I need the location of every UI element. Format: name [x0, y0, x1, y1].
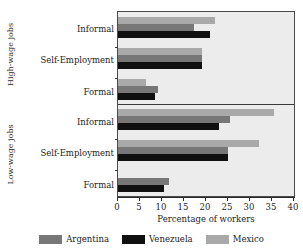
bar-high-wage-jobs-self-employment-argentina [118, 55, 202, 62]
category-label-low-self-employment: Self-Employment [22, 148, 114, 158]
x-tick-label: 25 [222, 202, 233, 212]
bar-low-wage-jobs-formal-venezuela [118, 185, 164, 192]
x-tick [161, 197, 162, 201]
bar-low-wage-jobs-formal-argentina [118, 178, 169, 185]
x-tick-label: 40 [288, 202, 299, 212]
panel-label-high-wage: High-wage jobs [6, 5, 15, 105]
legend-item-mexico[interactable]: Mexico [206, 234, 264, 244]
legend-label-argentina: Argentina [66, 234, 109, 244]
y-tick [115, 170, 118, 171]
bar-low-wage-jobs-informal-mexico [118, 109, 274, 116]
category-label-low-formal: Formal [22, 180, 114, 190]
x-tick [183, 197, 184, 201]
bar-high-wage-jobs-informal-mexico [118, 17, 215, 24]
x-tick [205, 197, 206, 201]
legend-swatch-venezuela-icon [122, 235, 145, 244]
category-label-high-formal: Formal [22, 87, 114, 97]
category-label-low-informal: Informal [22, 117, 114, 127]
bar-low-wage-jobs-self-employment-argentina [118, 147, 228, 154]
x-tick [139, 197, 140, 201]
bar-low-wage-jobs-self-employment-venezuela [118, 154, 228, 161]
x-tick [293, 197, 294, 201]
legend-swatch-mexico-icon [206, 235, 229, 244]
x-tick [227, 197, 228, 201]
legend-item-argentina[interactable]: Argentina [39, 234, 109, 244]
bar-low-wage-jobs-informal-venezuela [118, 123, 219, 130]
legend-label-mexico: Mexico [233, 234, 264, 244]
x-tick-label: 35 [266, 202, 277, 212]
x-axis-title: Percentage of workers [117, 214, 295, 224]
chart-root: High-wage jobs Low-wage jobs Informal Se… [0, 0, 303, 251]
bar-high-wage-jobs-self-employment-mexico [118, 48, 202, 55]
bar-high-wage-jobs-informal-venezuela [118, 31, 210, 38]
panel-label-low-wage: Low-wage jobs [6, 105, 15, 205]
x-tick-label: 30 [244, 202, 255, 212]
bar-low-wage-jobs-informal-argentina [118, 116, 230, 123]
x-tick [271, 197, 272, 201]
x-tick-label: 0 [114, 202, 119, 212]
category-label-high-self-employment: Self-Employment [22, 55, 114, 65]
panel-divider [118, 104, 294, 105]
legend-item-venezuela[interactable]: Venezuela [122, 234, 193, 244]
bar-high-wage-jobs-formal-venezuela [118, 93, 155, 100]
x-tick-label: 10 [156, 202, 167, 212]
x-tick [117, 197, 118, 201]
x-tick-label: 20 [200, 202, 211, 212]
bar-low-wage-jobs-self-employment-mexico [118, 140, 259, 147]
x-tick-label: 15 [178, 202, 189, 212]
legend-swatch-argentina-icon [39, 235, 62, 244]
x-tick-label: 5 [136, 202, 141, 212]
x-tick [249, 197, 250, 201]
x-axis-line [117, 197, 295, 198]
bar-high-wage-jobs-self-employment-venezuela [118, 62, 202, 69]
plot-area [117, 11, 295, 197]
bar-high-wage-jobs-informal-argentina [118, 24, 194, 31]
chart-legend: Argentina Venezuela Mexico [0, 232, 303, 246]
legend-label-venezuela: Venezuela [149, 234, 193, 244]
category-axis-labels: Informal Self-Employment Formal Informal… [18, 0, 114, 197]
bar-high-wage-jobs-formal-argentina [118, 86, 158, 93]
category-label-high-informal: Informal [22, 24, 114, 34]
bar-high-wage-jobs-formal-mexico [118, 79, 146, 86]
